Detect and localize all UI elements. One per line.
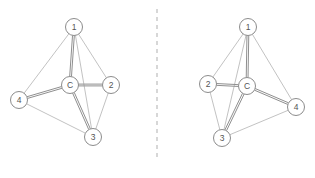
figure-canvas: 1234C1234C xyxy=(0,0,315,178)
graph-edge-3-4 xyxy=(230,110,288,134)
graph-edge-1-2 xyxy=(79,34,107,78)
graph-edge-2-3 xyxy=(96,93,108,129)
graph-edge-4-C xyxy=(254,89,288,105)
graph-node-2[interactable]: 2 xyxy=(103,77,120,94)
graph-figure: 1234C1234C xyxy=(0,0,315,178)
graph-node-4[interactable]: 4 xyxy=(288,99,305,116)
graph-node-4[interactable]: 4 xyxy=(11,92,28,109)
graph-edge-3-C xyxy=(73,92,91,129)
graph-edge-2-3 xyxy=(210,92,220,130)
graph-node-C[interactable]: C xyxy=(62,77,79,94)
graph-node-1[interactable]: 1 xyxy=(66,19,83,36)
graph-node-C[interactable]: C xyxy=(239,78,256,95)
graph-edge-1-2 xyxy=(213,34,243,77)
graph-edge-3-4 xyxy=(27,104,86,133)
graph-node-1[interactable]: 1 xyxy=(240,19,257,36)
graph-edge-1-C xyxy=(70,35,75,76)
graph-edge-2-C xyxy=(79,84,103,86)
graph-node-3[interactable]: 3 xyxy=(214,130,231,147)
graph-edge-2-C xyxy=(216,84,238,87)
graph-edge-4-C xyxy=(27,87,62,99)
graph-node-2[interactable]: 2 xyxy=(200,76,217,93)
graph-edge-1-C xyxy=(246,35,249,77)
graph-node-3[interactable]: 3 xyxy=(85,129,102,146)
